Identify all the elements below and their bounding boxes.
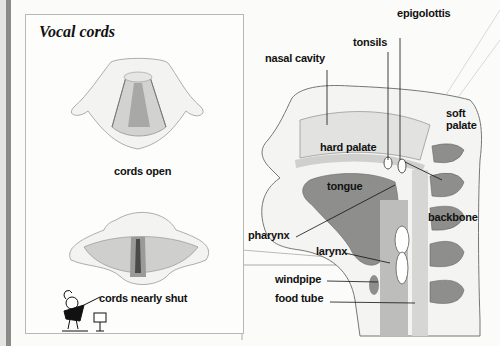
label-larynx: larynx: [316, 245, 347, 257]
label-tongue: tongue: [327, 180, 362, 192]
label-tonsils: tonsils: [353, 36, 387, 48]
label-hard-palate: hard palate: [320, 141, 377, 153]
label-food-tube: food tube: [275, 292, 323, 304]
label-pharynx: pharynx: [248, 229, 289, 241]
cords-open-illustration: [71, 58, 203, 149]
cords-nearly-shut-illustration: [70, 212, 209, 284]
label-epiglottis: epigolottis: [397, 7, 450, 19]
caption-cords-nearly-shut: cords nearly shut: [99, 292, 187, 304]
label-soft-palate-line2: palate: [446, 119, 477, 131]
caption-cords-open: cords open: [114, 165, 171, 177]
label-nasal-cavity: nasal cavity: [265, 52, 325, 64]
label-backbone: backbone: [428, 211, 478, 223]
label-soft-palate-line1: soft: [446, 107, 465, 119]
label-windpipe: windpipe: [275, 273, 321, 285]
vocal-cords-panel: Vocal cords: [25, 14, 244, 334]
